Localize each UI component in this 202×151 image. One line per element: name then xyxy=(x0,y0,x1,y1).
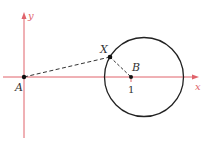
y-axis-arrow-icon xyxy=(22,12,27,19)
segment-XB xyxy=(110,57,131,77)
x-axis-arrow-icon xyxy=(192,75,199,80)
x-axis-label: x xyxy=(195,81,201,92)
point-B xyxy=(129,75,133,79)
diagram-canvas: y x A B X 1 xyxy=(0,0,202,151)
point-X xyxy=(108,55,113,60)
segment-AX xyxy=(24,57,110,77)
point-A xyxy=(22,75,26,79)
label-A: A xyxy=(14,81,23,94)
diagram-svg: y x A B X 1 xyxy=(0,0,202,151)
tick-label: 1 xyxy=(128,84,134,95)
label-B: B xyxy=(131,61,140,74)
label-X: X xyxy=(99,43,109,56)
y-axis-label: y xyxy=(27,10,34,21)
